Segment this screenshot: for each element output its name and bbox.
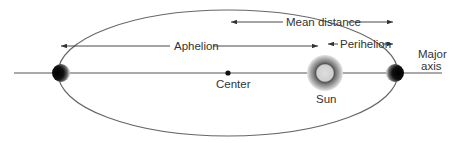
sun-icon [307,55,343,91]
aphelion-label: Aphelion [174,40,219,52]
planet-at-perihelion-icon [386,64,404,82]
orbit-diagram: Mean distance Aphelion Perihelion Center… [0,0,453,143]
mean-distance-label: Mean distance [286,16,361,28]
center-dot [225,70,230,75]
planet-at-aphelion-icon [52,64,70,82]
sun-label: Sun [316,93,336,105]
center-label: Center [216,78,251,90]
perihelion-label: Perihelion [340,38,391,50]
major-axis-label-line2: axis [421,60,442,72]
major-axis-label-line1: Major [418,48,447,60]
